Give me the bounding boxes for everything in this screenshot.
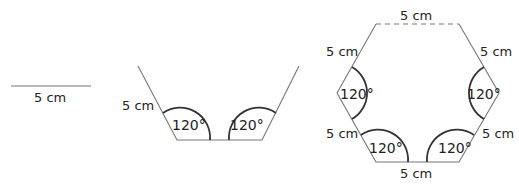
lower-left-length-label: 5 cm (326, 126, 358, 141)
upper-left-length-label: 5 cm (326, 44, 358, 59)
angle-label-left: 120° (340, 86, 374, 102)
figure-1-segment: 5 cm (11, 86, 91, 105)
angle-label-left: 120° (172, 117, 206, 133)
angle-label-bottom-right: 120° (438, 140, 472, 156)
angle-label-bottom-left: 120° (369, 140, 403, 156)
upper-right-length-label: 5 cm (480, 44, 512, 59)
hexagon-construction-diagram: 5 cm 5 cm 120° 120° 5 cm 5 cm 5 cm 5 cm … (0, 0, 519, 188)
angle-label-right: 120° (467, 86, 501, 102)
segment-length-label: 5 cm (34, 90, 66, 105)
figure-3-hexagon: 5 cm 5 cm 5 cm 5 cm 5 cm 5 cm 120° 120° … (326, 8, 514, 181)
top-length-label: 5 cm (400, 8, 432, 23)
partial-outline (138, 66, 299, 140)
angle-label-right: 120° (230, 117, 264, 133)
figure-2-partial: 5 cm 120° 120° (122, 66, 299, 140)
lower-right-length-label: 5 cm (482, 126, 514, 141)
bottom-length-label: 5 cm (400, 166, 432, 181)
side-length-label: 5 cm (122, 98, 154, 113)
